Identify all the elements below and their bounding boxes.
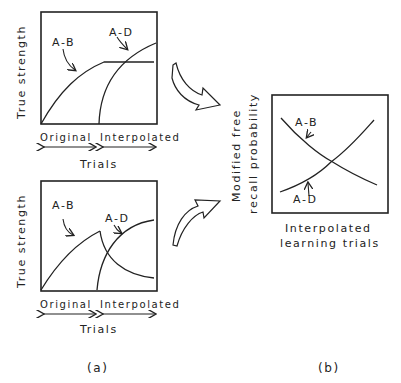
ad-curve: [99, 43, 156, 124]
block-arrow-down-right-icon: [172, 63, 220, 110]
phase-interpolated-label: Interpolated: [100, 132, 180, 143]
diagram-canvas: A-B A-D True strength Original Interpola…: [0, 0, 401, 383]
ab-label: A-B: [295, 116, 318, 129]
panel-a-top: A-B A-D True strength Original Interpola…: [15, 12, 180, 171]
y-axis-label: True strength: [15, 194, 28, 289]
phase-original-label: Original: [40, 132, 92, 143]
panel-a-bottom: A-B A-D True strength Original Interpola…: [15, 181, 180, 336]
ab-label: A-B: [52, 36, 75, 49]
block-arrow-up-right-icon: [173, 200, 220, 246]
ab-curve: [41, 62, 154, 124]
ad-label: A-D: [293, 193, 318, 206]
x-axis-label-line2: learning trials: [280, 237, 380, 250]
ad-curve: [97, 220, 154, 290]
caption-b: (b): [318, 361, 340, 375]
x-axis-label: Trials: [79, 323, 118, 336]
ad-label: A-D: [109, 26, 134, 39]
plot-frame: [41, 12, 157, 124]
plot-frame: [272, 95, 388, 213]
y-axis-label-line2: recall probability: [247, 93, 260, 214]
ad-curve: [280, 120, 374, 192]
panel-b: A-B A-D Modified free recall probability…: [230, 93, 388, 250]
ab-pointer-icon: [63, 219, 73, 235]
ab-pointer-icon: [63, 49, 75, 70]
x-axis-label-line1: Interpolated: [285, 222, 372, 235]
ad-label: A-D: [105, 212, 130, 225]
phase-interpolated-label: Interpolated: [100, 299, 180, 310]
caption-a: (a): [87, 361, 109, 375]
ad-pointer-icon: [114, 225, 121, 233]
phase-original-label: Original: [40, 299, 92, 310]
ab-decay-curve: [100, 231, 154, 278]
ab-curve: [41, 231, 100, 290]
x-axis-label: Trials: [79, 158, 118, 171]
y-axis-label: True strength: [15, 25, 28, 120]
ab-pointer-icon: [307, 132, 311, 137]
ab-label: A-B: [52, 199, 75, 212]
y-axis-label-line1: Modified free: [230, 109, 243, 202]
